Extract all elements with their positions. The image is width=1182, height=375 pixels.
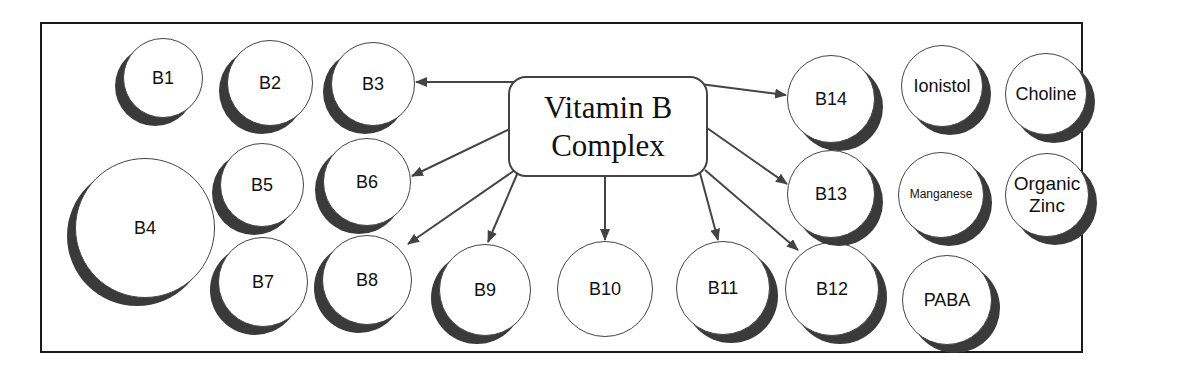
node-label: B4 <box>134 218 156 239</box>
node-organic-zinc: Organic Zinc <box>1005 153 1089 237</box>
node-label: B2 <box>259 73 281 94</box>
vitamin-b-complex-box: Vitamin B Complex <box>508 76 708 177</box>
node-label: B12 <box>816 279 848 300</box>
node-label: B11 <box>708 278 739 299</box>
node-b6: B6 <box>323 138 411 226</box>
node-label: B14 <box>815 89 847 110</box>
node-choline: Choline <box>1005 53 1087 135</box>
node-label: B13 <box>815 184 847 205</box>
node-b3: B3 <box>331 42 415 126</box>
node-label: B8 <box>356 270 378 291</box>
node-label: PABA <box>924 290 971 311</box>
node-label: B3 <box>362 74 384 95</box>
center-title-line2: Complex <box>551 127 665 164</box>
node-b9: B9 <box>439 244 531 336</box>
vitamin-b-complex-diagram: B1B2B3B4B5B6B7B8B9B10B11B12PABAB14Ionist… <box>0 0 1182 375</box>
arrow-to-b9 <box>488 172 518 242</box>
node-b7: B7 <box>218 237 308 327</box>
node-paba: PABA <box>902 255 992 345</box>
arrow-to-b13 <box>707 128 787 184</box>
arrow-to-b6 <box>412 128 512 176</box>
node-label: Choline <box>1015 84 1076 105</box>
node-b13: B13 <box>787 150 875 238</box>
node-b2: B2 <box>227 40 313 126</box>
node-label: Ionistol <box>913 76 970 97</box>
node-b4: B4 <box>75 158 215 298</box>
node-manganese: Manganese <box>898 152 984 238</box>
node-label: B10 <box>589 279 621 300</box>
node-label: Organic Zinc <box>1010 173 1084 217</box>
node-b12: B12 <box>785 242 879 336</box>
node-label: B1 <box>152 68 174 89</box>
node-b14: B14 <box>787 55 875 143</box>
node-b10: B10 <box>557 241 653 337</box>
node-b1: B1 <box>123 38 203 118</box>
node-b11: B11 <box>676 241 770 335</box>
node-label: B9 <box>474 280 496 301</box>
node-label: B5 <box>251 175 273 196</box>
node-label: Manganese <box>910 188 973 202</box>
arrow-to-b14 <box>700 84 786 95</box>
node-b8: B8 <box>322 235 412 325</box>
arrow-to-b8 <box>408 170 515 244</box>
arrow-to-b11 <box>700 173 718 240</box>
center-title-line1: Vitamin B <box>544 89 672 126</box>
node-label: B6 <box>356 172 378 193</box>
node-b5: B5 <box>220 143 304 227</box>
node-ionistol: Ionistol <box>901 45 983 127</box>
node-label: B7 <box>252 272 274 293</box>
